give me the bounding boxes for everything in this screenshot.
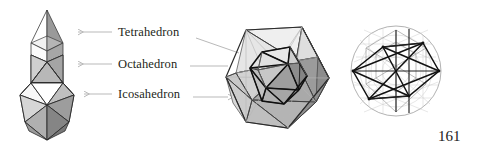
page-number: 161 xyxy=(438,128,461,145)
label-icosahedron: Icosahedron xyxy=(118,87,180,102)
polyhedra-figure xyxy=(0,0,479,153)
label-tetrahedron: Tetrahedron xyxy=(118,25,179,40)
figure-root: Tetrahedron Octahedron Icosahedron 161 xyxy=(0,0,479,153)
label-octahedron: Octahedron xyxy=(118,57,177,72)
